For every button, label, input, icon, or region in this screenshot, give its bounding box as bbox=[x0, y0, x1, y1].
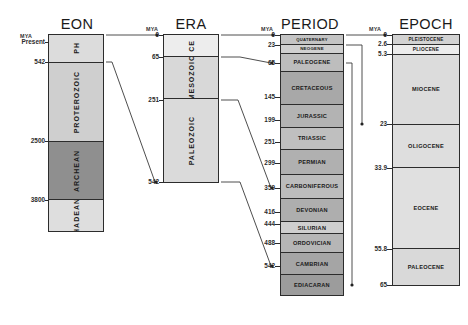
period-tick-3: 145 bbox=[244, 93, 275, 100]
era-tick-0: 0 bbox=[128, 31, 159, 38]
era-band-paleozoic-label: PALEOZOIC bbox=[188, 116, 195, 165]
period-band-carboniferous[interactable]: CARBONIFEROUS bbox=[281, 175, 343, 199]
eon-band-archean-label: ARCHEAN bbox=[73, 150, 80, 192]
era-tick-3: 542 bbox=[128, 178, 159, 185]
eon-tick-1: 542 bbox=[8, 58, 45, 65]
era-band-ce-label: CE bbox=[188, 40, 195, 52]
eon-band-hadean-label: HADEAN bbox=[73, 200, 80, 231]
period-band-jurassic[interactable]: JURASSIC bbox=[281, 105, 343, 128]
period-band-neogene-label: NEOGENE bbox=[300, 46, 324, 51]
period-band-permian-label: PERMIAN bbox=[298, 159, 326, 165]
period-tick-0: 0 bbox=[244, 31, 275, 38]
period-band-cretaceous[interactable]: CRETACEOUS bbox=[281, 72, 343, 106]
epoch-tick-4: 33.9 bbox=[356, 164, 387, 171]
eon-band-archean[interactable]: ARCHEAN bbox=[49, 142, 103, 200]
epoch-tick-1: 2.6 bbox=[356, 40, 387, 47]
epoch-band-paleocene[interactable]: PALEOCENE bbox=[393, 249, 459, 285]
period-band-jurassic-label: JURASSIC bbox=[297, 113, 327, 119]
period-band-ordovician-label: ORDOVICIAN bbox=[293, 240, 331, 246]
epoch-band-oligocene-label: OLIGOCENE bbox=[408, 143, 444, 149]
period-band-triassic-label: TRIASSIC bbox=[298, 135, 326, 141]
epoch-band-eocene[interactable]: EOCENE bbox=[393, 168, 459, 249]
epoch-band-pleistocene-label: PLEISTOCENE bbox=[408, 37, 443, 42]
epoch-band-pliocene[interactable]: PLIOCENE bbox=[393, 45, 459, 55]
period-band-cambrian-label: CAMBRIAN bbox=[296, 261, 328, 267]
period-band-quaternary-label: QUATERNARY bbox=[296, 37, 328, 42]
period-band-paleogene-label: PALEOGENE bbox=[294, 59, 331, 65]
column-header-eon: EON bbox=[38, 16, 116, 32]
epoch-band-miocene[interactable]: MIOCENE bbox=[393, 55, 459, 125]
period-band-permian[interactable]: PERMIAN bbox=[281, 150, 343, 175]
era-band-mesozoic-label: MESOZOIC bbox=[188, 57, 195, 99]
period-band-carboniferous-label: CARBONIFEROUS bbox=[286, 183, 339, 189]
epoch-band-paleocene-label: PALEOCENE bbox=[408, 264, 445, 270]
epoch-band-oligocene[interactable]: OLIGOCENE bbox=[393, 125, 459, 169]
period-tick-4: 199 bbox=[244, 116, 275, 123]
connector-period-to-epoch-neogene bbox=[346, 45, 364, 126]
eon-column-box: PH PROTEROZOIC ARCHEAN HADEAN bbox=[48, 34, 104, 232]
period-band-cretaceous-label: CRETACEOUS bbox=[291, 85, 332, 91]
column-header-era: ERA bbox=[152, 16, 230, 32]
eon-tick-2: 2500 bbox=[8, 137, 45, 144]
epoch-tick-2: 5.3 bbox=[356, 50, 387, 57]
eon-band-hadean[interactable]: HADEAN bbox=[49, 200, 103, 231]
epoch-tick-0: 0 bbox=[356, 31, 387, 38]
period-tick-2: 65 bbox=[244, 59, 275, 66]
period-tick-8: 416 bbox=[244, 208, 275, 215]
epoch-column-box: PLEISTOCENE PLIOCENE MIOCENE OLIGOCENE E… bbox=[392, 34, 460, 286]
period-band-neogene[interactable]: NEOGENE bbox=[281, 45, 343, 54]
era-tick-1: 65 bbox=[128, 53, 159, 60]
period-band-ediacaran[interactable]: EDIACARAN bbox=[281, 275, 343, 295]
epoch-band-pleistocene[interactable]: PLEISTOCENE bbox=[393, 35, 459, 45]
eon-band-proterozoic[interactable]: PROTEROZOIC bbox=[49, 63, 103, 142]
period-band-silurian-label: SILURIAN bbox=[298, 225, 326, 231]
connector-period-to-epoch-paleogene bbox=[346, 63, 354, 287]
eon-band-ph[interactable]: PH bbox=[49, 35, 103, 63]
period-band-ediacaran-label: EDIACARAN bbox=[294, 282, 330, 288]
period-tick-1: 23 bbox=[244, 41, 275, 48]
period-band-silurian[interactable]: SILURIAN bbox=[281, 222, 343, 234]
period-column-box: QUATERNARY NEOGENE PALEOGENE CRETACEOUS … bbox=[280, 34, 344, 296]
period-tick-7: 359 bbox=[244, 184, 275, 191]
eon-band-proterozoic-label: PROTEROZOIC bbox=[73, 71, 80, 133]
era-column-box: CE MESOZOIC PALEOZOIC bbox=[163, 34, 219, 183]
period-band-paleogene[interactable]: PALEOGENE bbox=[281, 54, 343, 72]
era-band-mesozoic[interactable]: MESOZOIC bbox=[164, 57, 218, 99]
period-tick-11: 542 bbox=[244, 262, 275, 269]
period-band-quaternary[interactable]: QUATERNARY bbox=[281, 35, 343, 45]
column-header-epoch: EPOCH bbox=[385, 16, 467, 32]
era-band-ce[interactable]: CE bbox=[164, 35, 218, 57]
eon-tick-3: 3800 bbox=[8, 196, 45, 203]
period-tick-5: 251 bbox=[244, 138, 275, 145]
epoch-band-pliocene-label: PLIOCENE bbox=[413, 47, 440, 52]
column-header-period: PERIOD bbox=[266, 16, 354, 32]
epoch-band-miocene-label: MIOCENE bbox=[412, 86, 440, 92]
period-tick-9: 444 bbox=[244, 220, 275, 227]
period-band-ordovician[interactable]: ORDOVICIAN bbox=[281, 234, 343, 253]
era-tick-2: 251 bbox=[128, 96, 159, 103]
period-tick-10: 488 bbox=[244, 239, 275, 246]
era-band-paleozoic[interactable]: PALEOZOIC bbox=[164, 99, 218, 182]
period-band-devonian[interactable]: DEVONIAN bbox=[281, 199, 343, 223]
eon-tick-0: Present bbox=[8, 38, 45, 45]
period-band-triassic[interactable]: TRIASSIC bbox=[281, 128, 343, 150]
period-band-cambrian[interactable]: CAMBRIAN bbox=[281, 253, 343, 275]
geologic-time-scale-diagram: EON ERA PERIOD EPOCH MYA MYA MYA MYA Pre… bbox=[0, 0, 468, 325]
eon-band-ph-label: PH bbox=[73, 42, 80, 54]
epoch-band-eocene-label: EOCENE bbox=[413, 205, 438, 211]
period-tick-6: 299 bbox=[244, 159, 275, 166]
period-band-devonian-label: DEVONIAN bbox=[296, 207, 328, 213]
epoch-tick-3: 23 bbox=[356, 120, 387, 127]
epoch-tick-5: 55.8 bbox=[356, 245, 387, 252]
epoch-tick-6: 65 bbox=[356, 281, 387, 288]
